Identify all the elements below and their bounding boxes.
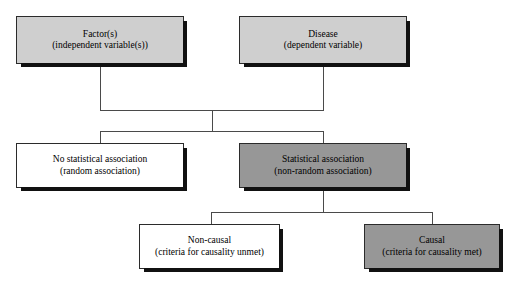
connector-to-causal (432, 212, 433, 224)
node-non-causal[interactable]: Non-causal (criteria for causality unmet… (139, 224, 280, 269)
node-factors-line1: Factor(s) (83, 29, 117, 40)
node-disease[interactable]: Disease (dependent variable) (239, 16, 407, 64)
node-shadow-bottom (244, 63, 410, 67)
node-shadow-right (499, 229, 503, 272)
node-statistical-association-line1: Statistical association (282, 154, 364, 165)
connector-row3-split (211, 212, 433, 213)
node-factors-line2: (independent variable(s)) (52, 40, 148, 51)
connector-factors-down (100, 65, 101, 110)
node-non-causal-line2: (criteria for causality unmet) (155, 247, 264, 258)
node-disease-line1: Disease (308, 29, 338, 40)
node-disease-line2: (dependent variable) (284, 40, 362, 51)
node-shadow-bottom (369, 268, 503, 272)
node-non-causal-line1: Non-causal (188, 235, 231, 246)
node-shadow-right (406, 21, 410, 67)
node-shadow-bottom (21, 63, 187, 67)
node-shadow-right (279, 229, 283, 272)
node-shadow-bottom (244, 187, 410, 191)
connector-to-no-statistical (100, 131, 101, 143)
node-shadow-right (406, 148, 410, 191)
connector-to-statistical (323, 131, 324, 143)
node-shadow-right (183, 21, 187, 67)
connector-row2-split (100, 131, 324, 132)
connector-to-non-causal (211, 212, 212, 224)
node-causal-line1: Causal (419, 235, 445, 246)
node-shadow-bottom (21, 187, 187, 191)
node-causal-line2: (criteria for causality met) (382, 247, 481, 258)
node-shadow-bottom (144, 268, 283, 272)
flowchart-canvas: Factor(s) (independent variable(s)) Dise… (0, 0, 514, 285)
connector-statistical-down (323, 188, 324, 212)
node-statistical-association[interactable]: Statistical association (non-random asso… (239, 143, 407, 188)
node-factors[interactable]: Factor(s) (independent variable(s)) (16, 16, 184, 64)
node-shadow-right (183, 148, 187, 191)
node-causal[interactable]: Causal (criteria for causality met) (364, 224, 500, 269)
node-statistical-association-line2: (non-random association) (274, 166, 371, 177)
node-no-statistical-association-line1: No statistical association (53, 154, 147, 165)
connector-row1-stem (212, 110, 213, 131)
node-no-statistical-association-line2: (random association) (60, 166, 140, 177)
connector-disease-down (323, 65, 324, 110)
node-no-statistical-association[interactable]: No statistical association (random assoc… (16, 143, 184, 188)
